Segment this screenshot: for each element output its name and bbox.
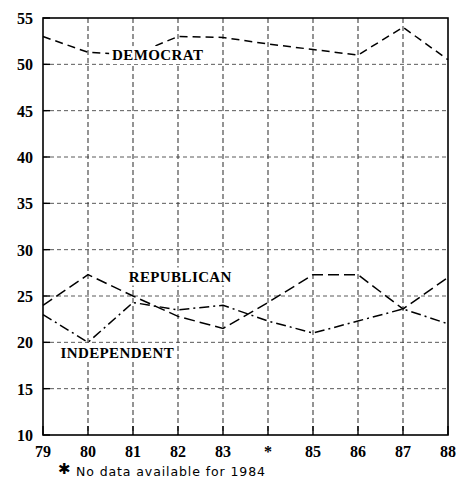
x-axis-labels: 7980818283*85868788: [35, 443, 456, 460]
vertical-gridlines: [88, 18, 403, 435]
series-label-independent: INDEPENDENT: [60, 345, 174, 361]
series-line-republican: [43, 275, 448, 329]
y-axis-tick-label: 30: [17, 242, 33, 259]
series-line-independent: [43, 302, 448, 342]
series-label-democrat: DEMOCRAT: [112, 47, 203, 63]
series-label-republican: REPUBLICAN: [129, 269, 232, 285]
x-axis-tick-label: 85: [305, 443, 321, 460]
x-axis-tick-label: 82: [170, 443, 186, 460]
party-identification-line-chart: 10152025303540455055 7980818283*85868788…: [0, 0, 464, 489]
chart-root: 10152025303540455055 7980818283*85868788…: [0, 0, 464, 489]
footnote-label: No data available for 1984: [76, 464, 266, 479]
x-axis-tick-label: 79: [35, 443, 51, 460]
y-axis-tick-label: 50: [17, 56, 33, 73]
y-axis-tick-label: 25: [17, 288, 33, 305]
x-axis-tick-label: *: [264, 443, 272, 460]
y-axis-tick-label: 10: [17, 427, 33, 444]
series-line-democrat: [43, 27, 448, 59]
plot-frame: [43, 18, 448, 435]
x-axis-tick-label: 83: [215, 443, 231, 460]
y-axis-tick-label: 15: [17, 381, 33, 398]
y-axis-tick-label: 40: [17, 149, 33, 166]
x-axis-tickmarks: [43, 426, 448, 435]
y-axis-labels: 10152025303540455055: [17, 10, 33, 444]
y-axis-tick-label: 20: [17, 334, 33, 351]
data-series-lines: [43, 27, 448, 342]
y-axis-tick-label: 45: [17, 103, 33, 120]
y-axis-tickmarks: [43, 18, 50, 435]
x-axis-tick-label: 87: [395, 443, 411, 460]
x-axis-tick-label: 81: [125, 443, 141, 460]
axis-frame: [43, 18, 448, 435]
x-axis-tick-label: 80: [80, 443, 96, 460]
x-axis-tick-label: 88: [440, 443, 456, 460]
horizontal-gridlines: [43, 64, 448, 388]
x-axis-tick-label: 86: [350, 443, 366, 460]
series-inline-labels: DEMOCRATREPUBLICANINDEPENDENT: [57, 46, 234, 361]
footnote-asterisk-icon: ✱: [58, 462, 71, 477]
y-axis-tick-label: 35: [17, 195, 33, 212]
y-axis-tick-label: 55: [17, 10, 33, 27]
